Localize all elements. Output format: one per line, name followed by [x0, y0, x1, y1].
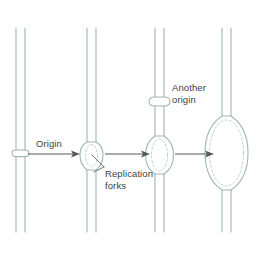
origin-mark-stage-1 [12, 150, 29, 157]
second-origin-mark-stage-3 [149, 97, 170, 106]
label-replication-forks: Replication forks [105, 168, 153, 191]
stage-arrow-1-to-2 [28, 150, 80, 157]
figure-canvas [0, 0, 259, 254]
stage-2-small-bubble [80, 28, 103, 232]
bubble-inner-dash-stage-2 [86, 145, 98, 167]
stage-1-origin [12, 28, 29, 232]
bubble-inner-dash-stage-4 [210, 120, 244, 186]
label-origin: Origin [36, 138, 62, 150]
stage-4-large-bubble [205, 28, 248, 232]
stage-arrow-2-to-3 [105, 150, 150, 157]
stage-3-medium-bubble [146, 28, 174, 232]
label-another-origin: Another origin [172, 82, 206, 105]
bubble-inner-dash-stage-3 [152, 139, 168, 171]
dna-replication-figure: Origin Another origin Replication forks [0, 0, 259, 254]
replication-bubble-stage-2 [80, 142, 103, 170]
stage-arrow-3-to-4 [175, 150, 214, 157]
